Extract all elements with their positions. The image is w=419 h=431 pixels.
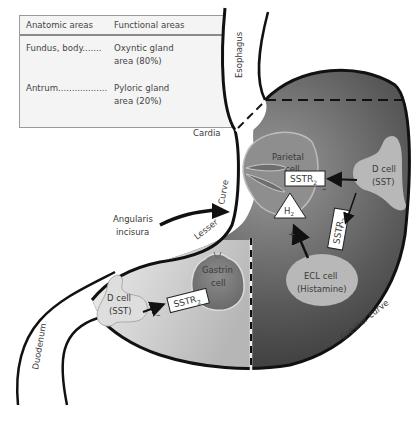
plus-sign-h2: + (288, 229, 296, 239)
minus-sign-gastrin: – (156, 310, 161, 320)
d-cell-antrum-label-1: D cell (107, 293, 131, 303)
ecl-cell-label-2: (Histamine) (297, 284, 347, 294)
angularis-label-2: incisura (116, 227, 149, 237)
gastrin-cell-label-2: cell (211, 278, 226, 288)
stomach-diagram: Parietal cell SSTR2 H2 D cell (SST) ECL … (0, 0, 419, 431)
arrow-dcell-to-sstr-parietal (330, 179, 357, 180)
gastrin-cell-label-1: Gastrin (202, 265, 233, 275)
ecl-cell: ECL cell (Histamine) (286, 254, 358, 306)
d-cell-fundus-label-2: (SST) (372, 177, 395, 187)
d-cell-antrum-label-2: (SST) (109, 306, 132, 316)
cardia-label: Cardia (193, 128, 220, 138)
sstr-sub: 2 (313, 179, 317, 186)
sstr2-parietal: SSTR2 (285, 171, 325, 186)
ecl-cell-label-1: ECL cell (304, 271, 337, 281)
d-cell-fundus-label-1: D cell (372, 164, 396, 174)
angularis-label-1: Angularis (113, 214, 153, 224)
curve-label: Curve (216, 179, 230, 205)
parietal-cell-label-1: Parietal (272, 152, 304, 162)
esophagus-label: Esophagus (234, 31, 244, 78)
minus-sign-parietal: – (322, 184, 327, 194)
sstr-label: SSTR (290, 174, 313, 184)
minus-sign-ecl: – (340, 222, 345, 232)
duodenum-inner-wall (63, 318, 98, 405)
lesser-label: Lesser (192, 217, 220, 242)
h2-sub: 2 (290, 211, 294, 217)
